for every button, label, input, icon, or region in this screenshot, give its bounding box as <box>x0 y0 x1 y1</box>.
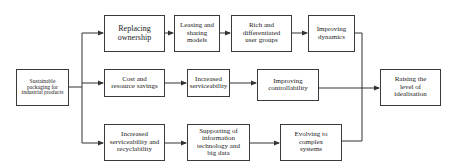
node-label: Supporting of information technology and… <box>194 128 243 157</box>
node-label: Cost and resource savings <box>111 76 158 91</box>
node-label: Evolving to complex systems <box>293 131 329 153</box>
node-label: Improving controllability <box>262 78 314 93</box>
source-node-label: Sustainable packaging for industrial pro… <box>19 79 66 97</box>
source-node: Sustainable packaging for industrial pro… <box>16 69 69 106</box>
node-label: Leasing and sharing models <box>177 22 217 44</box>
node-label: Increased serviceability and recyclabili… <box>109 131 160 153</box>
node-improving-dynamics: Improving dynamics <box>308 15 355 52</box>
node-supporting-it-big-data: Supporting of information technology and… <box>187 124 250 161</box>
node-rich-differentiated-user-groups: Rich and differentiated user groups <box>231 15 292 52</box>
node-label: Increased serviceability <box>190 76 228 91</box>
node-replacing-ownership: Replacing ownership <box>104 15 165 52</box>
node-label: Rich and differentiated user groups <box>238 22 285 44</box>
target-node: Raising the level of idealisation <box>380 69 441 106</box>
node-label: Improving dynamics <box>314 26 349 41</box>
node-increased-serviceability-recyclability: Increased serviceability and recyclabili… <box>104 124 165 161</box>
node-improving-controllability: Improving controllability <box>257 69 319 101</box>
node-evolving-complex-systems: Evolving to complex systems <box>280 124 342 161</box>
node-increased-serviceability: Increased serviceability <box>187 69 230 97</box>
target-node-label: Raising the level of idealisation <box>391 76 430 98</box>
node-label: Replacing ownership <box>115 25 154 42</box>
node-leasing-sharing-models: Leasing and sharing models <box>174 15 220 52</box>
node-cost-resource-savings: Cost and resource savings <box>104 69 165 97</box>
